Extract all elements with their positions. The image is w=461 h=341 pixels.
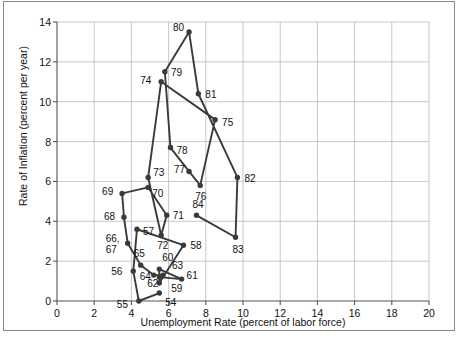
x-axis-title: Unemployment Rate (percent of labor forc… — [57, 316, 429, 328]
point-label-83: 83 — [233, 245, 244, 255]
point-label-79: 79 — [171, 68, 182, 78]
point-label-69: 69 — [102, 187, 113, 197]
y-tick-label-4: 4 — [29, 215, 51, 227]
y-axis-title: Rate of Inflation (percent per year) — [17, 26, 29, 226]
point-label-68: 68 — [104, 212, 115, 222]
gridlines — [57, 22, 429, 301]
chart-canvas — [0, 0, 461, 341]
y-tick-label-0: 0 — [29, 295, 51, 307]
point-label-72: 72 — [157, 241, 168, 251]
point-label-58: 58 — [190, 241, 201, 251]
point-label-80: 80 — [173, 23, 184, 33]
point-label-82: 82 — [244, 174, 255, 184]
point-label-54: 54 — [165, 298, 176, 308]
point-label-63: 63 — [172, 261, 183, 271]
point-label-74: 74 — [140, 76, 151, 86]
point-label-71: 71 — [173, 211, 184, 221]
point-label-77: 77 — [174, 165, 185, 175]
point-label-84: 84 — [193, 200, 204, 210]
y-tick-label-6: 6 — [29, 175, 51, 187]
point-label-75: 75 — [222, 118, 233, 128]
point-label-56: 56 — [111, 267, 122, 277]
y-tick-label-14: 14 — [29, 16, 51, 28]
point-label-59: 59 — [171, 284, 182, 294]
point-label-78: 78 — [176, 146, 187, 156]
axis-lines — [53, 22, 429, 305]
point-label-57: 57 — [143, 227, 154, 237]
y-tick-label-8: 8 — [29, 136, 51, 148]
point-label-67: 67 — [106, 245, 117, 255]
y-tick-label-2: 2 — [29, 255, 51, 267]
point-label-73: 73 — [153, 168, 164, 178]
point-label-55: 55 — [117, 300, 128, 310]
phillips-curve-figure: 02468101214161820 02468101214 5455565758… — [0, 0, 461, 341]
point-label-61: 61 — [187, 271, 198, 281]
point-label-81: 81 — [205, 90, 216, 100]
point-label-70: 70 — [152, 189, 163, 199]
y-tick-label-12: 12 — [29, 56, 51, 68]
point-label-66: 66, — [106, 234, 120, 244]
y-tick-label-10: 10 — [29, 96, 51, 108]
point-label-65: 65 — [134, 249, 145, 259]
point-label-64: 64 — [140, 272, 151, 282]
